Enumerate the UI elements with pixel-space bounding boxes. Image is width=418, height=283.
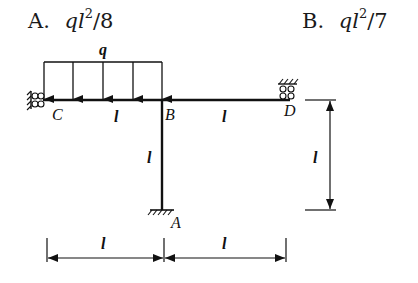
node-label-A: A — [170, 214, 181, 231]
load-label: q — [99, 41, 107, 59]
frame-diagram: A. ql2/8 B. ql2/7 q — [0, 0, 418, 283]
span-CB-label: l — [114, 108, 119, 125]
horizontal-dimension — [47, 238, 286, 262]
node-label-D: D — [283, 102, 296, 119]
column-BA-label: l — [147, 149, 152, 166]
vertical-dimension — [305, 100, 336, 210]
structure-svg: q — [0, 0, 418, 283]
dim-vertical-label: l — [313, 149, 318, 166]
roller-support-C-icon — [27, 91, 44, 110]
dim-right-label: l — [222, 235, 227, 252]
distributed-load — [44, 62, 162, 99]
roller-support-D-icon — [278, 79, 298, 99]
node-label-C: C — [52, 106, 63, 123]
span-BD-label: l — [222, 108, 227, 125]
dim-left-label: l — [101, 235, 106, 252]
node-label-B: B — [165, 106, 175, 123]
